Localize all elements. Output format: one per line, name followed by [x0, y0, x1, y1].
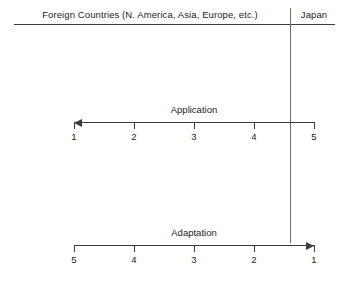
header-rule: [14, 24, 335, 25]
axis-adaptation-tick-label: 1: [302, 254, 326, 265]
header-japan-label: Japan: [292, 9, 336, 20]
axis-adaptation: Adaptation 5 4 3 2 1: [0, 227, 342, 271]
axis-adaptation-tick-label: 2: [242, 254, 266, 265]
arrow-left-icon: [74, 119, 82, 127]
axis-tick: [314, 122, 315, 129]
axis-application-tick-label: 1: [62, 131, 86, 142]
axis-adaptation-title: Adaptation: [74, 227, 314, 238]
diagram-canvas: Foreign Countries (N. America, Asia, Eur…: [0, 0, 342, 281]
axis-tick: [134, 122, 135, 129]
axis-adaptation-tick-label: 3: [182, 254, 206, 265]
axis-application-tick-label: 3: [182, 131, 206, 142]
axis-tick: [194, 245, 195, 252]
axis-tick: [74, 122, 75, 129]
axis-adaptation-tick-label: 5: [62, 254, 86, 265]
axis-application-tick-label: 2: [122, 131, 146, 142]
axis-adaptation-tick-label: 4: [122, 254, 146, 265]
header-foreign-countries-label: Foreign Countries (N. America, Asia, Eur…: [14, 9, 286, 20]
axis-tick: [134, 245, 135, 252]
axis-tick: [254, 245, 255, 252]
axis-application-tick-label: 5: [302, 131, 326, 142]
axis-tick: [74, 245, 75, 252]
arrow-right-icon: [306, 242, 314, 250]
axis-application-title: Application: [74, 104, 314, 115]
axis-tick: [254, 122, 255, 129]
axis-application-tick-label: 4: [242, 131, 266, 142]
axis-application: Application 1 2 3 4 5: [0, 104, 342, 148]
axis-tick: [314, 245, 315, 252]
axis-tick: [194, 122, 195, 129]
